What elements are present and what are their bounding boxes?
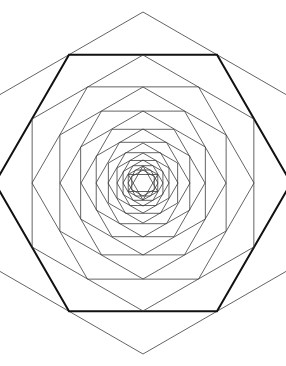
mandala-figure bbox=[0, 0, 286, 366]
mandala-canvas bbox=[0, 0, 286, 366]
